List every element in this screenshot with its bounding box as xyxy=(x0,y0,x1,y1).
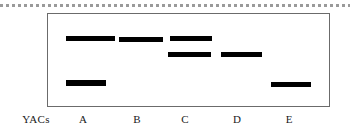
band-lane-c-middle xyxy=(168,52,211,57)
lane-label-d: D xyxy=(224,112,250,126)
band-lane-a-bottom xyxy=(66,80,106,86)
lane-label-c: C xyxy=(172,112,198,126)
band-lane-b-top xyxy=(119,37,163,42)
yacs-axis-label: YACs xyxy=(10,112,62,126)
lane-label-b: B xyxy=(124,112,150,126)
band-lane-e-bottom xyxy=(271,82,311,87)
band-lane-d-middle xyxy=(221,52,262,57)
band-lane-c-top xyxy=(170,36,212,41)
lane-label-row: YACs ABCDE xyxy=(0,112,350,130)
yac-band-figure: YACs ABCDE xyxy=(0,0,350,133)
band-lane-a-top xyxy=(66,36,115,41)
lane-label-e: E xyxy=(276,112,302,126)
top-dotted-rule-divider xyxy=(0,4,350,7)
lane-label-a: A xyxy=(70,112,96,126)
gel-panel xyxy=(47,13,330,107)
